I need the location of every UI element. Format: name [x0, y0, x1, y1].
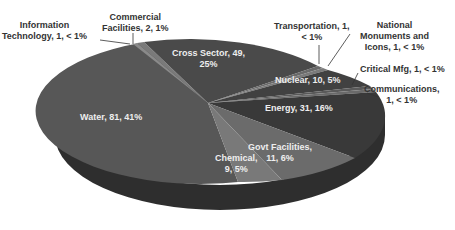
label-information-technology: Information Technology, 1, < 1% [2, 20, 87, 42]
label-line: Commercial [102, 12, 169, 23]
label-line: Chemical, [215, 153, 258, 164]
label-transportation: Transportation, 1, < 1% [274, 21, 350, 43]
label-line: < 1% [274, 32, 350, 43]
label-commercial-facilities: Commercial Facilities, 2, 1% [102, 12, 169, 34]
label-cross-sector: Cross Sector, 49, 25% [172, 48, 245, 70]
label-line: Critical Mfg, 1, < 1% [360, 64, 445, 75]
label-line: National [360, 20, 429, 31]
label-nuclear: Nuclear, 10, 5% [275, 75, 341, 86]
label-chemical: Chemical, 9, 5% [215, 153, 258, 175]
label-critical-mfg: Critical Mfg, 1, < 1% [360, 64, 445, 75]
label-line: 25% [172, 59, 245, 70]
label-line: 1, < 1% [364, 95, 440, 106]
label-national-monuments: National Monuments and Icons, 1, < 1% [360, 20, 429, 53]
label-line: Energy, 31, 16% [265, 103, 333, 114]
label-line: Technology, 1, < 1% [2, 31, 87, 42]
label-line: Water, 81, 41% [80, 112, 142, 123]
label-govt-facilities: Govt Facilities, 11, 6% [248, 142, 312, 164]
label-line: Facilities, 2, 1% [102, 23, 169, 34]
label-line: Information [2, 20, 87, 31]
label-communications: Communications, 1, < 1% [364, 84, 440, 106]
label-line: Cross Sector, 49, [172, 48, 245, 59]
label-line: Transportation, 1, [274, 21, 350, 32]
label-line: 11, 6% [248, 153, 312, 164]
label-water: Water, 81, 41% [80, 112, 142, 123]
label-line: 9, 5% [215, 164, 258, 175]
label-line: Monuments and [360, 31, 429, 42]
label-line: Communications, [364, 84, 440, 95]
label-line: Govt Facilities, [248, 142, 312, 153]
label-line: Icons, 1, < 1% [360, 42, 429, 53]
label-energy: Energy, 31, 16% [265, 103, 333, 114]
label-line: Nuclear, 10, 5% [275, 75, 341, 86]
